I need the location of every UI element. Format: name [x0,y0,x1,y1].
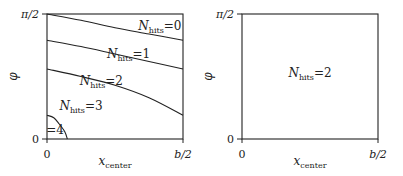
region-label: Nhits=0 [137,19,181,35]
x-tick-label: 0 [239,148,246,161]
panel-right: 0π/20b/2xcenterφNhits=2 [201,8,387,170]
panel-left: 0π/20b/2xcenterφNhits=0Nhits=1Nhits=2Nhi… [6,8,192,170]
x-tick-label: b/2 [369,148,387,161]
region-label: Nhits=2 [287,66,331,82]
y-tick-label: 0 [32,133,39,146]
y-tick-label: 0 [227,133,234,146]
y-tick-label: π/2 [215,8,234,21]
y-tick-label: π/2 [20,8,39,21]
region-label: =4 [46,123,64,137]
y-axis-label: φ [6,72,20,81]
chart-figure: 0π/20b/2xcenterφNhits=0Nhits=1Nhits=2Nhi… [0,0,403,176]
x-tick-label: b/2 [174,148,192,161]
y-axis-label: φ [201,72,215,81]
region-label: Nhits=2 [79,74,123,90]
region-label: Nhits=3 [58,99,102,115]
x-axis-label: xcenter [99,154,132,170]
region-label: Nhits=1 [106,47,150,63]
x-tick-label: 0 [44,148,51,161]
x-axis-label: xcenter [294,154,327,170]
